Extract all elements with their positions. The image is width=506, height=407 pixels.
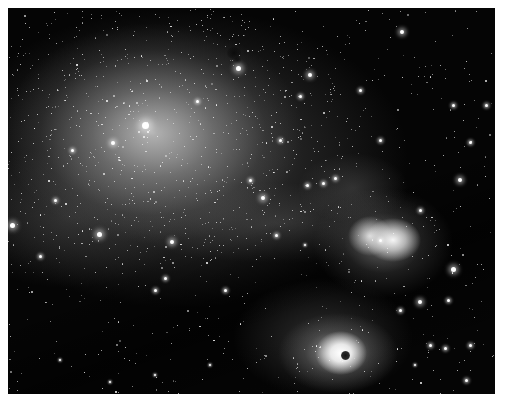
- faint-star: [372, 239, 374, 241]
- faint-star: [175, 71, 176, 72]
- faint-star: [431, 305, 432, 306]
- faint-star: [400, 207, 401, 208]
- faint-star: [273, 172, 275, 174]
- faint-star: [279, 73, 280, 74]
- faint-star: [207, 359, 208, 360]
- faint-star: [237, 236, 238, 237]
- faint-star: [227, 177, 228, 178]
- faint-star: [326, 50, 327, 51]
- faint-star: [483, 269, 485, 271]
- faint-star: [396, 26, 397, 27]
- faint-star: [359, 305, 360, 306]
- faint-star: [89, 244, 90, 245]
- faint-star: [213, 43, 214, 44]
- faint-star: [213, 133, 215, 135]
- faint-star: [98, 101, 99, 102]
- faint-star: [174, 267, 175, 268]
- faint-star: [332, 99, 333, 100]
- faint-star: [92, 241, 93, 242]
- faint-star: [300, 136, 301, 137]
- faint-star: [317, 141, 318, 142]
- faint-star: [294, 158, 295, 159]
- faint-star: [174, 197, 175, 198]
- faint-star: [150, 221, 151, 222]
- bright-star: [418, 300, 422, 304]
- faint-star: [162, 382, 163, 383]
- faint-star: [335, 137, 336, 138]
- faint-star: [216, 58, 217, 59]
- faint-star: [329, 360, 330, 361]
- faint-star: [95, 86, 96, 87]
- faint-star: [38, 59, 39, 60]
- faint-star: [89, 157, 90, 158]
- faint-star: [492, 356, 494, 358]
- faint-star: [178, 393, 179, 394]
- faint-star: [194, 112, 195, 113]
- bright-star: [304, 244, 306, 246]
- bright-star: [154, 289, 157, 292]
- faint-star: [30, 261, 31, 262]
- bright-star: [451, 267, 456, 272]
- faint-star: [351, 292, 352, 293]
- faint-star: [266, 233, 267, 234]
- faint-star: [48, 180, 50, 182]
- faint-star: [79, 75, 80, 76]
- faint-star: [319, 330, 320, 331]
- faint-star: [430, 220, 431, 221]
- faint-star: [17, 224, 18, 225]
- faint-star: [440, 393, 441, 394]
- faint-star: [197, 248, 198, 249]
- faint-star: [339, 168, 341, 170]
- faint-star: [188, 54, 189, 55]
- faint-star: [211, 192, 212, 193]
- faint-star: [216, 222, 217, 223]
- faint-star: [118, 351, 119, 352]
- faint-star: [342, 176, 344, 178]
- faint-star: [160, 263, 161, 264]
- faint-star: [280, 56, 281, 57]
- faint-star: [197, 184, 198, 185]
- faint-star: [314, 151, 315, 152]
- faint-star: [46, 302, 47, 303]
- faint-star: [185, 80, 186, 81]
- faint-star: [122, 273, 123, 274]
- faint-star: [293, 150, 294, 151]
- faint-star: [38, 122, 39, 123]
- faint-star: [205, 193, 206, 194]
- faint-star: [196, 24, 197, 25]
- faint-star: [42, 272, 43, 273]
- faint-star: [49, 38, 50, 39]
- faint-star: [251, 185, 252, 186]
- faint-star: [149, 130, 150, 131]
- faint-star: [453, 211, 455, 213]
- faint-star: [307, 371, 308, 372]
- faint-star: [43, 174, 44, 175]
- faint-star: [82, 230, 84, 232]
- faint-star: [47, 163, 48, 164]
- faint-star: [387, 49, 388, 50]
- faint-star: [54, 353, 55, 354]
- faint-star: [252, 183, 253, 184]
- faint-star: [253, 187, 255, 189]
- faint-star: [181, 165, 182, 166]
- faint-star: [321, 317, 322, 318]
- faint-star: [435, 171, 436, 172]
- faint-star: [310, 211, 312, 213]
- faint-star: [221, 74, 222, 75]
- faint-star: [43, 227, 44, 228]
- faint-star: [172, 262, 174, 264]
- faint-star: [76, 36, 78, 38]
- faint-star: [159, 97, 161, 99]
- faint-star: [264, 358, 265, 359]
- faint-star: [189, 328, 190, 329]
- faint-star: [351, 204, 352, 205]
- faint-star: [242, 164, 243, 165]
- faint-star: [14, 184, 15, 185]
- faint-star: [203, 73, 204, 74]
- faint-star: [101, 18, 102, 19]
- faint-star: [365, 108, 366, 109]
- faint-star: [190, 136, 191, 137]
- faint-star: [208, 222, 209, 223]
- faint-star: [55, 19, 57, 21]
- faint-star: [21, 199, 22, 200]
